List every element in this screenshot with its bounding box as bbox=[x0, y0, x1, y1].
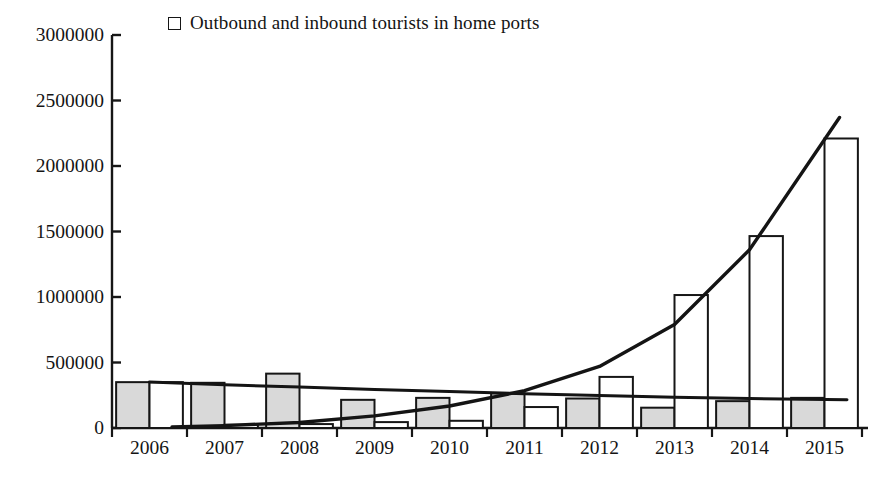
x-axis-tick-label: 2007 bbox=[186, 438, 264, 458]
x-axis-tick-label: 2015 bbox=[786, 438, 864, 458]
x-axis-tick-label: 2014 bbox=[711, 438, 789, 458]
chart-figure: Outbound and inbound tourists in home po… bbox=[0, 0, 884, 490]
x-axis-tick-label: 2006 bbox=[111, 438, 189, 458]
x-axis-tick-labels: 2006200720082009201020112012201320142015 bbox=[0, 0, 884, 490]
x-axis-tick-label: 2011 bbox=[486, 438, 564, 458]
x-axis-tick-label: 2009 bbox=[336, 438, 414, 458]
x-axis-tick-label: 2012 bbox=[561, 438, 639, 458]
x-axis-tick-label: 2010 bbox=[411, 438, 489, 458]
x-axis-tick-label: 2008 bbox=[261, 438, 339, 458]
x-axis-tick-label: 2013 bbox=[636, 438, 714, 458]
